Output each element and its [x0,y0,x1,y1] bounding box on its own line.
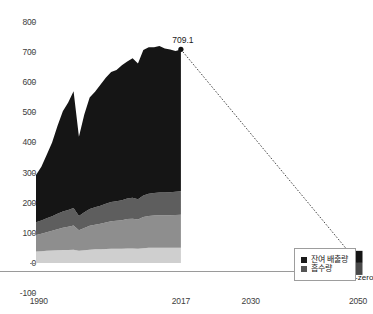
y-axis-line [0,0,1,271]
legend-item-1: 흡수량 [301,265,348,273]
projection-line [181,49,358,263]
legend-swatch-icon [301,266,307,272]
legend-label: 흡수량 [311,265,332,273]
legend-swatch-icon [301,257,307,263]
chart-legend: 잔여 배출량흡수량 [294,248,356,281]
peak-marker-dot [178,47,183,52]
x-tick-label: 2017 [172,296,190,306]
x-tick-label: 2030 [242,296,260,306]
x-tick-label: 1990 [30,296,48,306]
peak-value-label: 709.1 [172,35,193,45]
y-tick-mark [30,293,36,294]
legend-label: 잔여 배출량 [311,256,348,264]
legend-item-0: 잔여 배출량 [301,256,348,264]
x-tick-label: 2050 [349,296,367,306]
